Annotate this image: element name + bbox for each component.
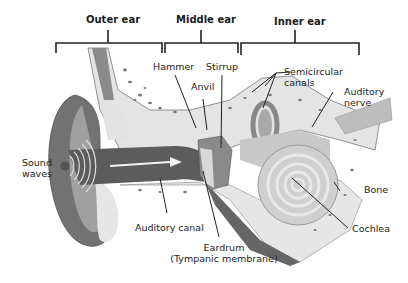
label-hammer: Hammer	[153, 61, 194, 72]
label-eardrum-line1: Eardrum	[168, 242, 280, 253]
label-bone: Bone	[364, 184, 388, 195]
label-eardrum: Eardrum (Tympanic membrane)	[168, 242, 280, 264]
label-sound-waves-line2: waves	[22, 168, 52, 179]
label-sound-waves: Sound waves	[22, 157, 52, 179]
ear-illustration	[0, 0, 408, 283]
label-auditory-nerve-line2: nerve	[344, 97, 384, 108]
label-stirrup: Stirrup	[206, 61, 238, 72]
lobule-cartilage	[95, 180, 118, 242]
label-anvil: Anvil	[191, 81, 214, 92]
cochlea-shape	[258, 145, 338, 225]
label-sound-waves-line1: Sound	[22, 157, 52, 168]
inner-ear-bracket	[241, 43, 359, 55]
label-cochlea: Cochlea	[352, 223, 390, 234]
label-auditory-canal: Auditory canal	[135, 222, 204, 233]
label-semicircular-line2: canals	[284, 77, 343, 88]
label-semicircular-canals: Semicircular canals	[284, 66, 343, 88]
label-auditory-nerve-line1: Auditory	[344, 86, 384, 97]
middle-ear-bracket	[165, 43, 238, 53]
label-eardrum-line2: (Tympanic membrane)	[168, 253, 280, 264]
section-middle-ear: Middle ear	[176, 14, 236, 25]
label-auditory-nerve: Auditory nerve	[344, 86, 384, 108]
section-outer-ear: Outer ear	[86, 14, 140, 25]
section-inner-ear: Inner ear	[274, 16, 326, 27]
label-semicircular-line1: Semicircular	[284, 66, 343, 77]
